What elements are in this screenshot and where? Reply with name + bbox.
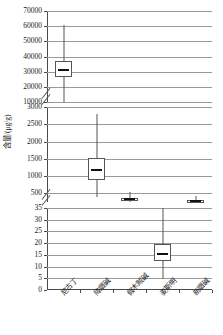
gridline bbox=[47, 87, 212, 88]
gridline bbox=[47, 11, 212, 12]
panel-top: 10000200003000040000500006000070000 bbox=[47, 11, 212, 102]
y-tick bbox=[44, 267, 47, 268]
y-tick-label: 20 bbox=[35, 239, 43, 247]
y-tick bbox=[44, 72, 47, 73]
gridline bbox=[47, 142, 212, 143]
median-line bbox=[124, 198, 135, 200]
median-line bbox=[190, 200, 201, 202]
y-tick-label: 70000 bbox=[23, 7, 42, 15]
y-tick bbox=[44, 159, 47, 160]
y-tick bbox=[44, 243, 47, 244]
y-tick-label: 1000 bbox=[27, 172, 42, 180]
y-tick bbox=[44, 41, 47, 42]
y-tick-label: 1500 bbox=[27, 155, 42, 163]
y-tick bbox=[44, 176, 47, 177]
y-tick-label: 50000 bbox=[23, 38, 42, 46]
y-tick-label: 40000 bbox=[23, 53, 42, 61]
boxplot-figure: 含量/(μg/g) 100002000030000400005000060000… bbox=[0, 0, 223, 335]
gridline bbox=[47, 159, 212, 160]
whisker-line bbox=[96, 114, 97, 197]
gridline bbox=[47, 243, 212, 244]
y-tick-label: 30 bbox=[35, 216, 43, 224]
y-tick-label: 3000 bbox=[27, 103, 42, 111]
y-axis-line-middle bbox=[47, 107, 48, 202]
gridline bbox=[47, 26, 212, 27]
y-tick-label: 60000 bbox=[23, 22, 42, 30]
axis-break-marker bbox=[42, 199, 55, 210]
y-tick-label: 0 bbox=[38, 286, 42, 294]
y-tick-label: 500 bbox=[31, 190, 42, 198]
gridline bbox=[47, 267, 212, 268]
x-tick bbox=[212, 290, 213, 293]
y-tick-label: 20000 bbox=[23, 83, 42, 91]
y-tick bbox=[44, 231, 47, 232]
x-axis-labels: 尼古丁降烟碱假木贼碱麦斯明新烟碱 bbox=[47, 292, 212, 335]
y-tick bbox=[44, 11, 47, 12]
y-axis-title: 含量/(μg/g) bbox=[4, 100, 12, 164]
y-tick bbox=[44, 278, 47, 279]
median-line bbox=[91, 169, 102, 171]
gridline bbox=[47, 41, 212, 42]
gridline bbox=[47, 124, 212, 125]
y-tick-label: 2000 bbox=[27, 138, 42, 146]
y-tick bbox=[44, 57, 47, 58]
y-tick bbox=[44, 290, 47, 291]
plot-area-middle: 50010001500200025003000 bbox=[47, 107, 212, 202]
gridline bbox=[47, 208, 212, 209]
gridline bbox=[47, 107, 212, 108]
y-tick-label: 30000 bbox=[23, 68, 42, 76]
gridline bbox=[47, 176, 212, 177]
y-tick bbox=[44, 142, 47, 143]
y-tick bbox=[44, 255, 47, 256]
median-line bbox=[157, 253, 168, 255]
panel-middle: 50010001500200025003000 bbox=[47, 107, 212, 202]
axis-break-marker bbox=[42, 98, 55, 109]
gridline bbox=[47, 102, 212, 103]
gridline bbox=[47, 231, 212, 232]
y-tick-label: 10 bbox=[35, 263, 43, 271]
y-tick bbox=[44, 26, 47, 27]
y-tick bbox=[44, 220, 47, 221]
y-tick-label: 2500 bbox=[27, 121, 42, 129]
plot-area-top: 10000200003000040000500006000070000 bbox=[47, 11, 212, 102]
gridline bbox=[47, 57, 212, 58]
y-tick-label: 15 bbox=[35, 251, 43, 259]
median-line bbox=[58, 69, 69, 71]
y-tick bbox=[44, 124, 47, 125]
gridline bbox=[47, 220, 212, 221]
y-tick-label: 25 bbox=[35, 228, 43, 236]
gridline bbox=[47, 255, 212, 256]
y-tick bbox=[44, 87, 47, 88]
y-tick-label: 5 bbox=[38, 275, 42, 283]
